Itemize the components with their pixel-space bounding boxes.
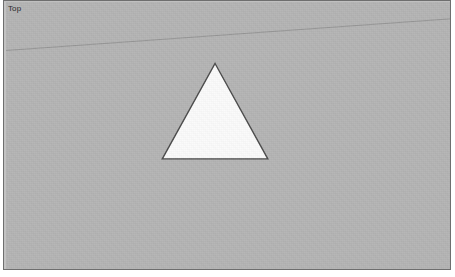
model-drawing-canvas[interactable] <box>4 1 450 269</box>
view-name-label: Top <box>8 4 21 14</box>
application-root: Top <box>0 0 455 277</box>
modeling-viewport[interactable]: Top <box>3 0 451 270</box>
